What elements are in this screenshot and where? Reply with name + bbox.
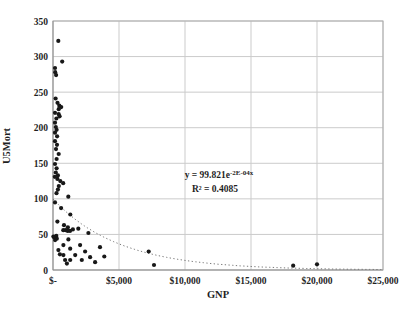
data-point (56, 248, 60, 252)
data-point (54, 116, 58, 120)
data-point (55, 157, 59, 161)
data-point (68, 229, 72, 233)
data-point (147, 249, 151, 253)
data-point (291, 264, 295, 268)
data-point (86, 231, 90, 235)
data-point (55, 166, 59, 170)
data-point (58, 252, 62, 256)
x-tick-labels: $-$5,000$10,000$15,000$20,000$25,000 (49, 276, 399, 286)
data-point (55, 220, 59, 224)
data-point (62, 223, 66, 227)
data-point (102, 254, 106, 258)
data-point (63, 258, 67, 262)
data-point (59, 206, 63, 210)
x-tick-label: $25,000 (368, 276, 399, 286)
y-axis-label: U5Mort (1, 127, 12, 164)
data-point (83, 249, 87, 253)
y-tick-label: 300 (34, 52, 49, 62)
y-tick-label: 150 (34, 159, 49, 169)
data-point (73, 253, 77, 257)
data-point (88, 255, 92, 259)
data-point (54, 147, 58, 151)
y-tick-label: 100 (34, 194, 49, 204)
chart-generated-layer: 050100150200250300350$-$5,000$10,000$15,… (34, 17, 399, 287)
data-point (65, 262, 69, 266)
data-point (61, 181, 65, 185)
data-point (53, 131, 57, 135)
data-point (54, 191, 58, 195)
x-tick-label: $20,000 (302, 276, 333, 286)
data-point (53, 162, 57, 166)
plot-border (53, 21, 383, 270)
y-tick-label: 0 (43, 266, 48, 276)
data-point (93, 260, 97, 264)
data-point (68, 247, 72, 251)
data-point (152, 263, 156, 267)
data-point (54, 73, 58, 77)
data-point (61, 243, 65, 247)
data-point (57, 152, 61, 156)
r2-annotation: R² = 0.4085 (192, 184, 238, 194)
x-axis-label: GNP (207, 289, 230, 300)
data-point (53, 121, 57, 125)
data-point (53, 139, 57, 143)
data-point (53, 111, 57, 115)
data-point (53, 200, 57, 204)
y-gridlines (53, 21, 383, 234)
data-point (56, 188, 60, 192)
y-tick-label: 200 (34, 123, 49, 133)
equation-base-text: y = 99.821e (185, 170, 230, 180)
data-point (80, 258, 84, 262)
x-tick-label: $10,000 (170, 276, 201, 286)
y-tick-label: 50 (39, 230, 49, 240)
data-point (66, 237, 70, 241)
data-point (53, 66, 57, 70)
data-point (76, 227, 80, 231)
chart-figure: 050100150200250300350$-$5,000$10,000$15,… (0, 0, 419, 317)
equation-annotation: y = 99.821e-2E-04x (185, 169, 254, 181)
y-tick-label: 350 (34, 17, 49, 27)
data-point (55, 134, 59, 138)
scatter-chart: 050100150200250300350$-$5,000$10,000$15,… (0, 0, 419, 317)
data-point (68, 212, 72, 216)
x-gridlines (119, 21, 383, 270)
data-point (60, 60, 64, 64)
data-point (57, 184, 61, 188)
data-point (61, 253, 65, 257)
data-point (315, 262, 319, 266)
data-point (51, 235, 55, 239)
data-point (98, 245, 102, 249)
x-tick-label: $5,000 (106, 276, 132, 286)
data-point (57, 107, 61, 111)
data-point (54, 96, 58, 100)
x-tick-label: $15,000 (236, 276, 267, 286)
y-tick-labels: 050100150200250300350 (34, 17, 49, 276)
data-point (55, 143, 59, 147)
data-point (66, 195, 70, 199)
data-point (56, 39, 60, 43)
equation-exponent-text: -2E-04x (230, 169, 254, 177)
data-point (68, 258, 72, 262)
y-tick-label: 250 (34, 88, 49, 98)
data-point (78, 243, 82, 247)
x-tick-label: $- (49, 276, 57, 286)
